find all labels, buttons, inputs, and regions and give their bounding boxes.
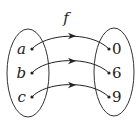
mapping-arrow-b-6	[32, 61, 109, 73]
domain-set-ellipse	[7, 29, 49, 117]
function-label: f	[62, 9, 71, 27]
codomain-element-9: 9	[112, 88, 122, 106]
mapping-diagram: f a b c 0 6 9	[0, 0, 138, 123]
domain-element-b: b	[16, 64, 26, 82]
codomain-element-6: 6	[112, 64, 122, 82]
domain-element-c: c	[18, 88, 27, 106]
domain-element-a: a	[17, 40, 26, 58]
codomain-element-0: 0	[112, 40, 122, 58]
